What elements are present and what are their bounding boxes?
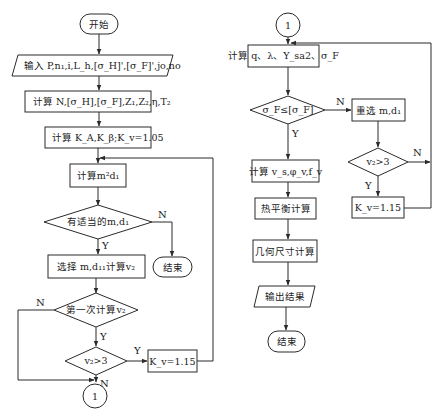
yes-label: Y bbox=[133, 345, 141, 356]
connector-left-label: 1 bbox=[92, 391, 98, 402]
decision-suitable: 有适当的m,d₁ bbox=[44, 205, 152, 239]
decision-v2-left-label: v₂>3 bbox=[83, 355, 107, 366]
start-terminator: 开始 bbox=[80, 14, 118, 34]
input-parallelogram: 输入 P,n₁,i,L_h,[σ_H]',[σ_F]',jo,no bbox=[12, 55, 181, 76]
yes-label: Y bbox=[101, 240, 109, 251]
connector-right-label: 1 bbox=[285, 20, 291, 31]
start-label: 开始 bbox=[89, 19, 109, 30]
heat-box: 热平衡计算 bbox=[255, 198, 316, 219]
yes-label: Y bbox=[364, 180, 372, 191]
connector-1-left: 1 bbox=[83, 384, 107, 408]
decision-sigma-label: σ_F≤[σ_F] bbox=[262, 104, 313, 116]
reselect-box: 重选 m,d₁ bbox=[352, 99, 405, 121]
output-label: 输出结果 bbox=[265, 291, 305, 302]
decision-sigma: σ_F≤[σ_F] bbox=[250, 96, 325, 124]
yes-label: Y bbox=[99, 331, 107, 342]
no-label: N bbox=[36, 297, 45, 308]
geometry-label: 几何尺寸计算 bbox=[255, 246, 315, 257]
kv-left-label: K_v=1.15 bbox=[149, 356, 195, 368]
calc-m-label: 计算m²d₁ bbox=[77, 170, 120, 181]
decision-v2-left: v₂>3 bbox=[65, 347, 127, 375]
yes-label: Y bbox=[291, 128, 299, 139]
reselect-label: 重选 m,d₁ bbox=[356, 105, 401, 116]
no-label: N bbox=[336, 96, 345, 107]
decision-first-label: 第一次计算v₂ bbox=[66, 304, 125, 315]
no-label: N bbox=[158, 209, 167, 220]
input-label: 输入 P,n₁,i,L_h,[σ_H]',[σ_F]',jo,no bbox=[24, 60, 181, 72]
calc-m-box: 计算m²d₁ bbox=[70, 164, 126, 187]
calc-q-box: 计算 q、λ、Y_sa2、σ_F bbox=[228, 45, 339, 67]
connector-1-right: 1 bbox=[276, 13, 300, 37]
end-label: 结束 bbox=[277, 336, 297, 347]
calc-vs-label: 计算 v_s,φ_v,f_v bbox=[249, 166, 323, 178]
select-label: 选择 m,d₁₁计算v₂ bbox=[57, 261, 135, 272]
calc-vs-box: 计算 v_s,φ_v,f_v bbox=[249, 160, 323, 182]
calc-k-box: 计算 K_A,K_β;K_v=1.05 bbox=[45, 127, 164, 148]
calc-n-label: 计算 N,[σ_H],[σ_F],Z₁,Z₂,η,T₂ bbox=[33, 96, 171, 108]
output-parallelogram: 输出结果 bbox=[254, 286, 315, 307]
heat-label: 热平衡计算 bbox=[261, 203, 311, 214]
end-fail-terminator: 结束 bbox=[153, 257, 192, 277]
end-terminator: 结束 bbox=[268, 331, 305, 352]
decision-first: 第一次计算v₂ bbox=[54, 293, 138, 327]
select-box: 选择 m,d₁₁计算v₂ bbox=[48, 255, 145, 278]
decision-suitable-label: 有适当的m,d₁ bbox=[67, 216, 129, 227]
calc-n-box: 计算 N,[σ_H],[σ_F],Z₁,Z₂,η,T₂ bbox=[25, 91, 171, 112]
flowchart: 开始 输入 P,n₁,i,L_h,[σ_H]',[σ_F]',jo,no 计算 … bbox=[0, 0, 442, 417]
calc-k-label: 计算 K_A,K_β;K_v=1.05 bbox=[52, 132, 164, 144]
calc-q-label: 计算 q、λ、Y_sa2、σ_F bbox=[228, 50, 339, 62]
decision-v2-right: v₂>3 bbox=[348, 148, 408, 176]
end-fail-label: 结束 bbox=[163, 262, 183, 273]
kv-right-label: K_v=1.15 bbox=[355, 202, 401, 214]
kv-box-right: K_v=1.15 bbox=[352, 197, 404, 218]
kv-box-left: K_v=1.15 bbox=[148, 350, 197, 372]
geometry-box: 几何尺寸计算 bbox=[253, 240, 317, 262]
no-label: N bbox=[413, 147, 422, 158]
decision-v2-right-label: v₂>3 bbox=[365, 156, 389, 167]
